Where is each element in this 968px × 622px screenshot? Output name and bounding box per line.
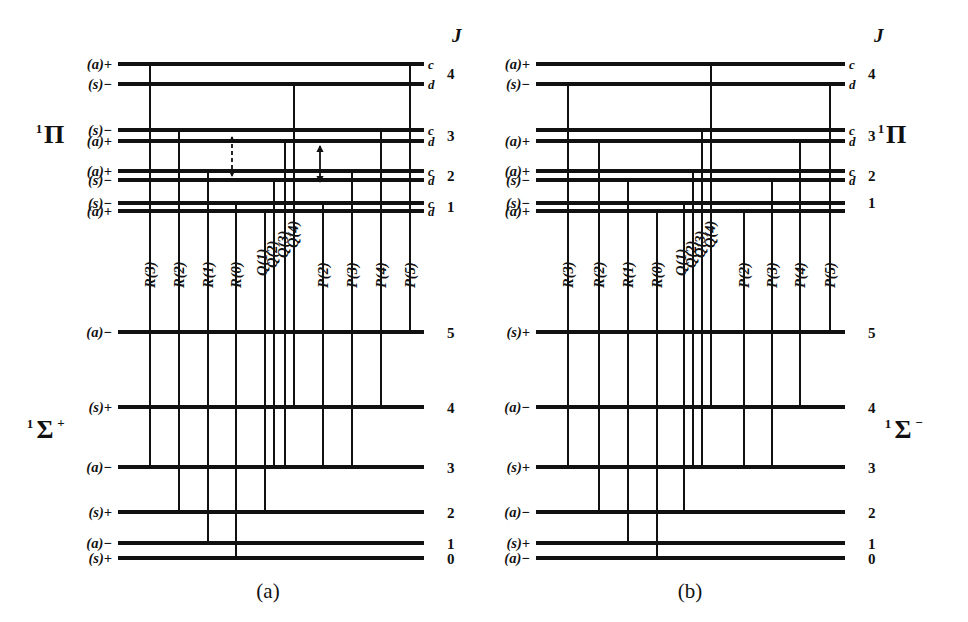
lower-level-j-number: 5: [447, 325, 455, 341]
lower-level-parity-label: (s)+: [88, 504, 112, 521]
branch-label-R2: R(2): [171, 261, 188, 289]
branch-label-P5: P(5): [402, 262, 419, 288]
lower-term-charge: −: [915, 415, 922, 430]
branch-label-Q4: Q(4): [285, 221, 302, 248]
upper-level-parity-label: (s)−: [88, 172, 112, 189]
lower-level-j-number: 0: [447, 551, 455, 567]
upper-level-parity-label: (a)+: [87, 56, 112, 73]
diagram-canvas: (a)+c(s)−d(s)−c(a)+d(a)+c(s)−d(s)−c(a)+d…: [0, 0, 968, 622]
upper-level-cd-label: d: [428, 173, 435, 188]
lower-term-multiplicity: 1: [885, 416, 892, 431]
branch-label-R1: R(1): [200, 261, 217, 289]
branch-label-P3: P(3): [344, 262, 361, 288]
lower-level-j-number: 4: [868, 400, 876, 416]
lower-level-parity-label: (a)−: [504, 550, 530, 567]
upper-level-parity-label: (a)+: [87, 133, 112, 150]
upper-level-parity-label: (a)+: [505, 56, 530, 73]
upper-term-letter: Π: [44, 120, 64, 149]
lower-level-parity-label: (a)−: [504, 504, 530, 521]
lower-level-j-number: 3: [868, 460, 876, 476]
panel-caption-b: (b): [678, 579, 703, 603]
upper-level-j-number: 2: [447, 168, 455, 184]
upper-level-j-number: 3: [447, 128, 455, 144]
lower-level-parity-label: (s)+: [506, 324, 530, 341]
lower-level-parity-label: (a)−: [86, 459, 112, 476]
branch-label-P2: P(2): [736, 262, 753, 288]
upper-level-parity-label: (s)−: [88, 76, 112, 93]
lower-term-multiplicity: 1: [27, 416, 34, 431]
lower-level-parity-label: (a)−: [504, 399, 530, 416]
upper-level-cd-label: c: [428, 57, 434, 72]
upper-level-cd-label: d: [428, 77, 435, 92]
upper-level-cd-label: d: [428, 204, 435, 219]
branch-label-R2: R(2): [591, 261, 608, 289]
upper-level-j-number: 1: [868, 195, 876, 211]
lower-level-parity-label: (a)−: [86, 324, 112, 341]
upper-term-letter: Π: [886, 120, 906, 149]
figure-background: [0, 0, 968, 622]
branch-label-P2: P(2): [315, 262, 332, 288]
branch-label-R0: R(0): [228, 261, 245, 289]
branch-label-R3: R(3): [560, 261, 577, 289]
upper-level-cd-label: c: [849, 57, 855, 72]
upper-level-cd-label: d: [849, 134, 856, 149]
branch-label-P5: P(5): [822, 262, 839, 288]
lower-level-parity-label: (s)+: [88, 399, 112, 416]
upper-level-j-number: 4: [868, 66, 876, 82]
upper-level-j-number: 4: [447, 66, 455, 82]
branch-label-R1: R(1): [620, 261, 637, 289]
branch-label-Q4: Q(4): [702, 221, 719, 248]
branch-label-P3: P(3): [764, 262, 781, 288]
lower-level-j-number: 1: [868, 536, 876, 552]
branch-label-R0: R(0): [649, 261, 666, 289]
branch-label-P4: P(4): [373, 262, 390, 288]
lower-level-parity-label: (s)+: [88, 550, 112, 567]
upper-level-parity-label: (a)+: [505, 133, 530, 150]
lower-level-j-number: 3: [447, 460, 455, 476]
energy-level-diagram-figure: (a)+c(s)−d(s)−c(a)+d(a)+c(s)−d(s)−c(a)+d…: [0, 0, 968, 622]
lower-level-j-number: 4: [447, 400, 455, 416]
lower-level-j-number: 2: [868, 505, 876, 521]
lower-level-j-number: 5: [868, 325, 876, 341]
branch-label-P4: P(4): [792, 262, 809, 288]
upper-level-parity-label: (a)+: [87, 203, 112, 220]
j-axis-header: J: [451, 25, 462, 46]
lower-level-j-number: 2: [447, 505, 455, 521]
lower-level-j-number: 1: [447, 536, 455, 552]
branch-label-R3: R(3): [142, 261, 159, 289]
lower-level-j-number: 0: [868, 551, 876, 567]
upper-level-parity-label: (a)+: [505, 203, 530, 220]
upper-level-cd-label: d: [428, 134, 435, 149]
upper-level-parity-label: (s)−: [506, 76, 530, 93]
upper-term-multiplicity: 1: [36, 121, 43, 136]
upper-level-parity-label: (s)−: [506, 172, 530, 189]
lower-term-letter: Σ: [895, 415, 912, 444]
j-axis-header: J: [873, 25, 884, 46]
lower-term-charge: +: [57, 415, 64, 430]
upper-level-cd-label: d: [849, 77, 856, 92]
upper-level-cd-label: d: [849, 173, 856, 188]
upper-level-j-number: 2: [868, 168, 876, 184]
lower-term-letter: Σ: [37, 415, 54, 444]
upper-level-j-number: 3: [868, 128, 876, 144]
panel-caption-a: (a): [256, 579, 279, 603]
upper-level-j-number: 1: [447, 199, 455, 215]
upper-term-multiplicity: 1: [878, 121, 885, 136]
lower-level-parity-label: (s)+: [506, 459, 530, 476]
